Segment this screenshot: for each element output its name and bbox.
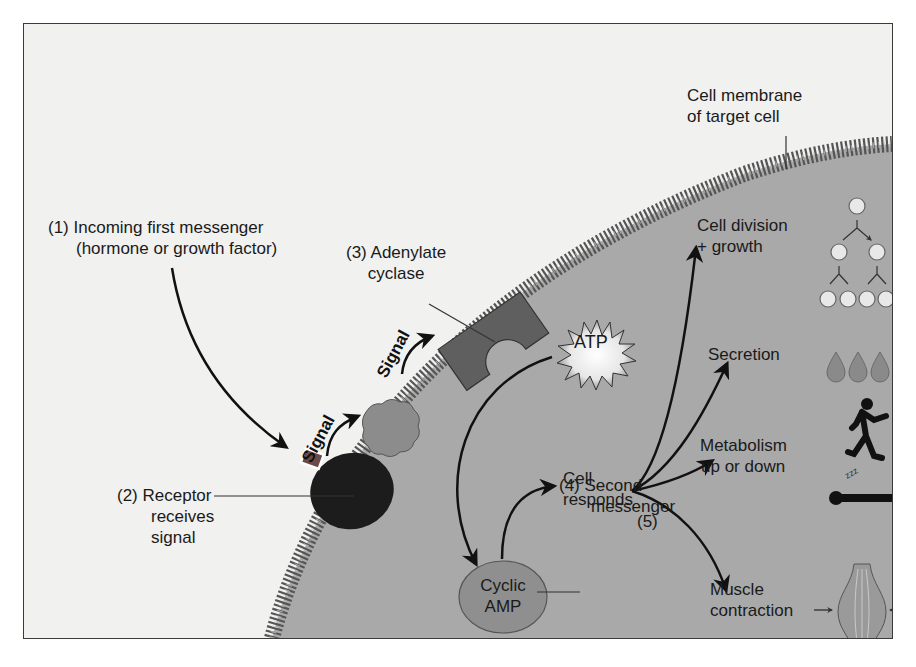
step5-label: (5) bbox=[637, 511, 658, 532]
step1-label: (1) Incoming first messenger (hormone or… bbox=[48, 217, 277, 259]
response-secretion: Secretion bbox=[708, 344, 780, 365]
step2-label: (2) Receptor receives signal bbox=[117, 485, 214, 548]
response-metabolism: Metabolism up or down bbox=[700, 435, 787, 477]
g-protein bbox=[362, 399, 419, 456]
membrane-label: Cell membrane of target cell bbox=[687, 85, 802, 127]
cell-interior bbox=[272, 144, 892, 638]
step3-label: (3) Adenylate cyclase bbox=[346, 242, 446, 284]
atp-label: ATP bbox=[574, 332, 608, 353]
cell-responds-label: Cell responds bbox=[563, 468, 633, 510]
response-muscle-contraction: Muscle contraction bbox=[710, 579, 793, 621]
first-messenger-arrow bbox=[172, 268, 286, 447]
diagram-frame: zzz (1) Incoming first messenger (hormon… bbox=[23, 23, 893, 639]
droplets-icon bbox=[827, 352, 889, 382]
response-cell-division: Cell division + growth bbox=[697, 215, 788, 257]
camp-label: Cyclic AMP bbox=[471, 575, 535, 617]
